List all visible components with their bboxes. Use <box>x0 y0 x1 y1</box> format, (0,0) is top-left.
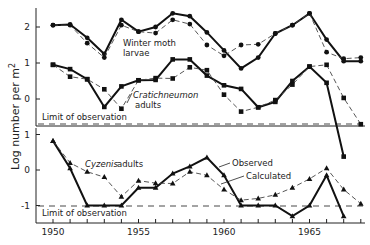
square-marker <box>85 77 90 82</box>
y-axis-label: Log number per m2 <box>8 63 22 170</box>
y-tick-label: -1 <box>21 201 30 211</box>
circle-marker <box>324 50 329 55</box>
circle-marker <box>222 53 227 58</box>
circle-marker <box>239 66 244 71</box>
winter-moth-label: Winter moth <box>123 38 176 48</box>
circle-marker <box>119 23 124 28</box>
circle-marker <box>187 22 192 27</box>
axes: 012-1011950195519601965 <box>21 8 365 237</box>
circle-marker <box>256 42 261 47</box>
square-marker <box>119 106 124 111</box>
square-marker <box>256 105 261 110</box>
square-marker <box>359 122 364 127</box>
observed-pointer <box>219 163 230 167</box>
square-marker <box>170 76 175 81</box>
circle-marker <box>68 23 73 28</box>
label-layer: Log number per m2 Winter moth larvae Cra… <box>8 38 291 218</box>
circle-marker <box>85 41 90 46</box>
y-tick-label: 0 <box>24 165 30 175</box>
circle-marker <box>324 37 329 42</box>
square-marker <box>188 57 193 62</box>
square-marker <box>324 63 329 68</box>
population-chart: 012-1011950195519601965 Log number per m… <box>0 0 370 245</box>
triangle-marker <box>307 176 313 181</box>
triangle-marker <box>50 138 56 143</box>
y-tick-label: 1 <box>24 130 30 140</box>
triangle-marker <box>238 197 244 202</box>
y-tick-label: 0 <box>24 94 30 104</box>
triangle-marker <box>204 155 210 160</box>
square-marker <box>239 109 244 114</box>
square-marker <box>170 57 175 62</box>
circle-marker <box>153 31 158 36</box>
square-marker <box>222 92 227 97</box>
y-tick-label: 2 <box>24 22 30 32</box>
square-marker <box>341 96 346 101</box>
square-marker <box>273 98 278 103</box>
circle-marker <box>85 35 90 40</box>
calculated-label: Calculated <box>246 171 291 181</box>
square-marker <box>68 67 73 72</box>
x-tick-label: 1960 <box>213 227 236 237</box>
series-line <box>53 141 344 216</box>
y-tick-label: 1 <box>24 58 30 68</box>
square-marker <box>205 68 210 73</box>
triangle-marker <box>102 174 108 179</box>
circle-marker <box>119 17 124 22</box>
triangle-marker <box>170 180 176 185</box>
circle-marker <box>205 30 210 35</box>
series-line <box>53 59 344 156</box>
circle-marker <box>153 25 158 30</box>
square-marker <box>51 63 56 68</box>
series-line <box>53 141 361 204</box>
series-line <box>53 13 361 68</box>
cratichneumon-label: Cratichneumon <box>133 90 198 100</box>
circle-marker <box>256 55 261 60</box>
square-marker <box>290 82 295 87</box>
x-tick-label: 1950 <box>42 227 65 237</box>
square-marker <box>188 65 193 70</box>
square-marker <box>324 81 329 86</box>
circle-marker <box>290 23 295 28</box>
square-marker <box>341 154 346 159</box>
square-marker <box>119 84 124 89</box>
square-marker <box>102 87 107 92</box>
circle-marker <box>358 55 363 60</box>
square-marker <box>307 64 312 69</box>
circle-marker <box>136 29 141 34</box>
square-marker <box>239 87 244 92</box>
circle-marker <box>51 23 56 28</box>
cyzenis-label: Cyzenis <box>85 159 118 169</box>
circle-marker <box>222 48 227 53</box>
square-marker <box>136 78 141 83</box>
triangle-marker <box>290 185 296 190</box>
triangle-marker <box>324 165 330 170</box>
square-marker <box>102 105 107 110</box>
cratichneumon-adults-label: adults <box>135 100 162 110</box>
lower-limit-label: Limit of observation <box>42 208 127 218</box>
triangle-marker <box>324 172 330 177</box>
square-marker <box>222 83 227 88</box>
circle-marker <box>239 43 244 48</box>
circle-marker <box>273 31 278 36</box>
square-marker <box>68 74 73 79</box>
circle-marker <box>307 11 312 16</box>
cyzenis-adults-label: adults <box>117 159 144 169</box>
circle-marker <box>187 14 192 19</box>
observed-label: Observed <box>232 158 273 168</box>
x-tick-label: 1965 <box>298 227 321 237</box>
triangle-marker <box>84 169 90 174</box>
square-marker <box>153 76 158 81</box>
larvae-label: larvae <box>123 48 150 58</box>
circle-marker <box>341 56 346 61</box>
upper-limit-label: Limit of observation <box>42 112 127 122</box>
triangle-marker <box>187 169 193 174</box>
circle-marker <box>170 11 175 16</box>
square-marker <box>205 73 210 78</box>
circle-marker <box>170 17 175 22</box>
triangle-marker <box>221 187 227 192</box>
x-tick-label: 1955 <box>127 227 150 237</box>
circle-marker <box>205 43 210 48</box>
triangle-marker <box>136 178 142 183</box>
triangle-marker <box>358 201 364 206</box>
